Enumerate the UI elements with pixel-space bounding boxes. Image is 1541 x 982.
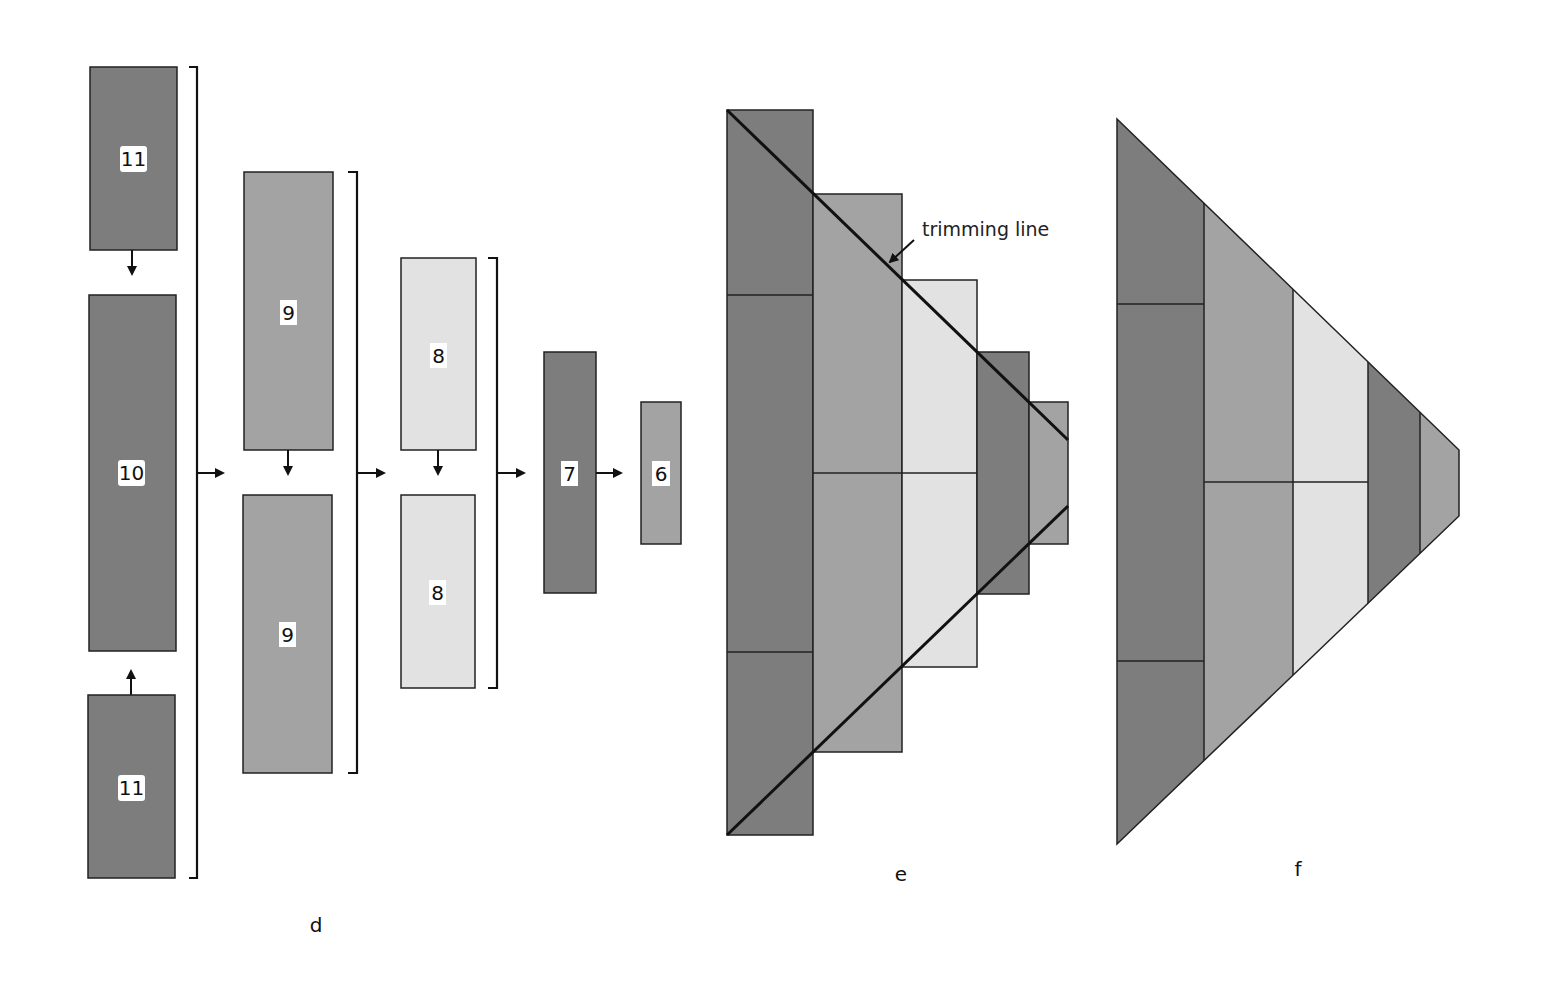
column-11-10-11 [727, 110, 813, 835]
bracket [488, 258, 497, 688]
box-8-bottom: 8 [401, 495, 475, 688]
box-label: 8 [432, 344, 445, 368]
bracket [189, 67, 197, 878]
box-7: 7 [544, 352, 596, 593]
box-label: 8 [431, 581, 444, 605]
box-6: 6 [641, 402, 681, 544]
column-7 [977, 352, 1029, 594]
box-10: 10 [89, 295, 176, 651]
box-label: 11 [121, 147, 146, 171]
panel-e: trimming line e [727, 110, 1068, 886]
box-11-top: 11 [90, 67, 177, 250]
box-label: 7 [563, 462, 576, 486]
box-9-top: 9 [244, 172, 333, 450]
trimming-line-annotation: trimming line [922, 218, 1049, 240]
box-9-bottom: 9 [243, 495, 332, 773]
panel-d: 11 10 11 9 9 [88, 67, 681, 937]
diagram-canvas: 11 10 11 9 9 [0, 0, 1541, 982]
box-label: 10 [119, 461, 144, 485]
panel-label-d: d [310, 913, 323, 937]
bracket [348, 172, 357, 773]
box-label: 6 [655, 462, 668, 486]
panel-f: f [1117, 100, 1459, 881]
box-label: 9 [281, 623, 294, 647]
box-label: 11 [119, 776, 144, 800]
panel-label-e: e [895, 862, 907, 886]
panel-label-f: f [1294, 857, 1302, 881]
box-label: 9 [282, 301, 295, 325]
box-11-bottom: 11 [88, 695, 175, 878]
box-8-top: 8 [401, 258, 476, 450]
column-6 [1029, 402, 1068, 544]
